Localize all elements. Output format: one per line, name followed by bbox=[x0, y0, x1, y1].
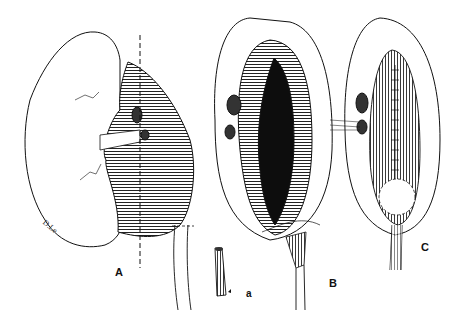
panel-a-kidney bbox=[25, 32, 194, 310]
panel-label-B: B bbox=[329, 277, 337, 289]
panel-label-A: A bbox=[115, 266, 123, 278]
panel-c-completed-repair bbox=[330, 18, 440, 270]
panel-label-a: a bbox=[246, 288, 252, 299]
panel-b-opened-pelvis bbox=[215, 18, 333, 310]
surgical-illustration bbox=[0, 0, 457, 328]
panel-a-ureter-spatulated bbox=[215, 247, 231, 296]
panel-label-C: C bbox=[421, 241, 429, 253]
